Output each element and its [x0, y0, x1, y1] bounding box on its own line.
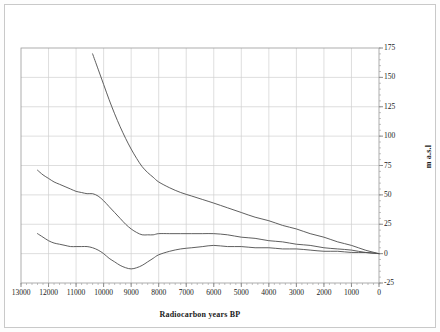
- y-tick-label: 125: [384, 102, 412, 111]
- curve-upper-shoreline: [93, 54, 379, 254]
- y-tick-label: 0: [384, 249, 412, 258]
- y-axis-title: m a.s.l: [424, 127, 433, 187]
- data-curves: [38, 54, 379, 269]
- y-tick-label: -25: [384, 278, 412, 287]
- y-tick-label: 150: [384, 72, 412, 81]
- y-tick-label: 25: [384, 219, 412, 228]
- shoreline-displacement-chart: [0, 0, 440, 332]
- y-tick-label: 75: [384, 161, 412, 170]
- y-tick-label: 50: [384, 190, 412, 199]
- x-axis-title: Radiocarbon years BP: [0, 310, 400, 319]
- chart-page: Radiocarbon years BP m a.s.l 13000120001…: [0, 0, 440, 332]
- curve-lower-shoreline: [38, 234, 379, 269]
- x-tick-label: 0: [359, 288, 399, 297]
- y-tick-label: 175: [384, 43, 412, 52]
- y-tick-label: 100: [384, 131, 412, 140]
- curve-middle-shoreline: [38, 170, 379, 253]
